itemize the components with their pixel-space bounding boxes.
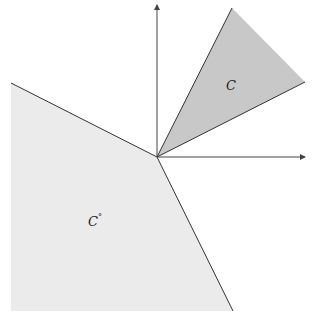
polar-cone-diagram: C C ° [0,0,317,321]
polar-cone-superscript: ° [98,212,102,221]
polar-cone-label: C [88,214,98,229]
cone-label: C [226,78,236,93]
